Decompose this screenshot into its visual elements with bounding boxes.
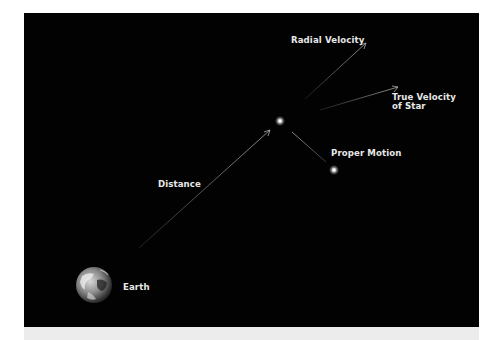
proper-motion-arrow [292,132,326,162]
star-displaced-icon [329,165,339,175]
earth-label: Earth [123,283,150,292]
radial-velocity-arrow [305,43,366,99]
diagram-canvas [0,0,500,340]
earth-globe-icon [76,267,112,303]
true-velocity-arrow [320,86,398,110]
distance-arrow [139,130,270,248]
distance-label: Distance [158,180,201,189]
star-icon [275,116,285,126]
radial-velocity-label: Radial Velocity [291,36,364,45]
true-velocity-label-line2: of Star [392,102,426,111]
proper-motion-label: Proper Motion [331,149,401,158]
